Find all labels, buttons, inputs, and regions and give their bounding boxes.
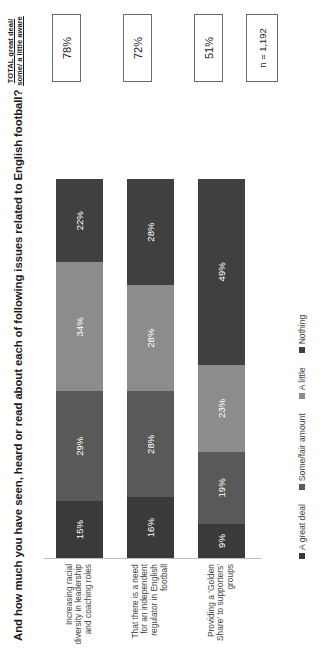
legend-label: A little bbox=[297, 367, 307, 390]
legend-item-nothing: Nothing bbox=[297, 315, 307, 354]
total-column-header: TOTAL great deal/ some/ a little aware bbox=[6, 10, 25, 92]
bar-segment-value: 29% bbox=[74, 437, 85, 456]
bar-segment-a-great-deal: 15% bbox=[56, 501, 103, 558]
bar-segment-value: 28% bbox=[145, 435, 156, 454]
bar-row: That there is a need for an independent … bbox=[127, 179, 174, 558]
bar-segment-some-fair-amount: 29% bbox=[56, 391, 103, 501]
bar-segment-a-little: 23% bbox=[198, 365, 245, 452]
bar-category-label: That there is a need for an independent … bbox=[131, 564, 171, 648]
total-value-box: 51% bbox=[194, 14, 223, 82]
bar-segment-some-fair-amount: 28% bbox=[127, 391, 174, 497]
total-value-box: 78% bbox=[52, 14, 81, 82]
legend-label: Nothing bbox=[297, 315, 307, 345]
axis-baseline bbox=[44, 558, 262, 559]
legend-label: Some/fair amount bbox=[297, 413, 307, 481]
bar-segment-a-little: 28% bbox=[127, 285, 174, 391]
bar-segment-value: 34% bbox=[74, 317, 85, 336]
legend-swatch-icon bbox=[299, 347, 305, 353]
bar-segment-some-fair-amount: 19% bbox=[198, 452, 245, 524]
legend-label: A great deal bbox=[297, 504, 307, 550]
bar-segment-a-great-deal: 9% bbox=[198, 524, 245, 558]
legend-item-a-great-deal: A great deal bbox=[297, 504, 307, 559]
total-value-box: 72% bbox=[123, 14, 152, 82]
stacked-bar-plot: Increasing racial diversity in leadershi… bbox=[44, 179, 262, 559]
bar-segment-value: 28% bbox=[145, 329, 156, 348]
bar-segment-nothing: 49% bbox=[198, 179, 245, 365]
base-size-box: n = 1,192 bbox=[246, 14, 278, 82]
bar-segment-value: 23% bbox=[216, 399, 227, 418]
bar-segment-a-great-deal: 16% bbox=[127, 497, 174, 558]
chart-legend: A great deal Some/fair amount A little N… bbox=[297, 315, 307, 559]
bar-segment-value: 28% bbox=[145, 222, 156, 241]
legend-swatch-icon bbox=[299, 553, 305, 559]
bar-segment-value: 49% bbox=[216, 262, 227, 281]
bar-segment-value: 19% bbox=[216, 478, 227, 497]
legend-swatch-icon bbox=[299, 393, 305, 399]
bar-segment-nothing: 22% bbox=[56, 179, 103, 262]
legend-item-a-little: A little bbox=[297, 367, 307, 399]
legend-item-some-fair-amount: Some/fair amount bbox=[297, 413, 307, 490]
bar-segment-a-little: 34% bbox=[56, 262, 103, 391]
bar-category-label: Increasing racial diversity in leadershi… bbox=[65, 564, 95, 648]
bar-segment-nothing: 28% bbox=[127, 179, 174, 285]
bar-segment-value: 15% bbox=[74, 520, 85, 539]
legend-swatch-icon bbox=[299, 484, 305, 490]
chart-slide: And how much you have seen, heard or rea… bbox=[0, 0, 321, 655]
bar-segment-value: 22% bbox=[74, 211, 85, 230]
bar-row: Providing a ‘Golden Share’ to supporters… bbox=[198, 179, 245, 558]
bar-row: Increasing racial diversity in leadershi… bbox=[56, 179, 103, 558]
chart-title: And how much you have seen, heard or rea… bbox=[12, 81, 25, 641]
bar-segment-value: 9% bbox=[216, 534, 227, 548]
bar-category-label: Providing a ‘Golden Share’ to supporters… bbox=[207, 564, 237, 648]
bar-segment-value: 16% bbox=[145, 518, 156, 537]
